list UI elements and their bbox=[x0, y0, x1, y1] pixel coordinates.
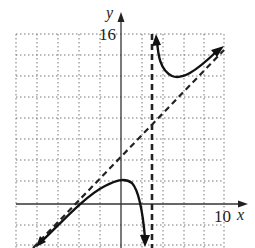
x-axis-label: x bbox=[236, 206, 244, 223]
y-axis-label: y bbox=[104, 4, 114, 22]
left-branch bbox=[40, 180, 145, 243]
grid bbox=[16, 34, 224, 248]
y-tick-label: 16 bbox=[99, 25, 116, 44]
y-axis-arrow-icon bbox=[118, 12, 125, 22]
asymptotes bbox=[33, 34, 224, 248]
right-branch bbox=[157, 40, 216, 77]
curve bbox=[40, 40, 216, 243]
graph-plot: y 16 10 x bbox=[0, 0, 255, 248]
x-tick-label: 10 bbox=[214, 207, 231, 226]
slant-asymptote bbox=[33, 50, 224, 248]
axes bbox=[16, 18, 244, 248]
right-branch-up-arrow-icon bbox=[152, 34, 161, 46]
